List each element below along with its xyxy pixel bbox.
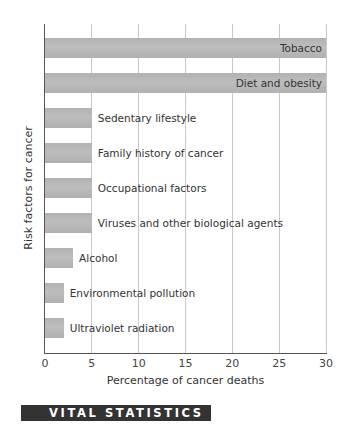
y-axis-line — [44, 24, 45, 354]
vital-statistics-banner: VITAL STATISTICS — [21, 405, 211, 421]
x-tick-label: 20 — [225, 357, 239, 370]
y-axis-title: Risk factors for cancer — [22, 126, 35, 249]
x-axis-title: Percentage of cancer deaths — [45, 374, 326, 387]
bar — [45, 178, 92, 198]
bar — [45, 283, 64, 303]
x-tick-label: 30 — [319, 357, 333, 370]
bar-label: Family history of cancer — [98, 143, 223, 163]
bar-label: Diet and obesity — [236, 73, 322, 93]
bar-label: Alcohol — [79, 248, 117, 268]
bar — [45, 143, 92, 163]
bar-label: Tobacco — [280, 38, 322, 58]
bar — [45, 108, 92, 128]
bar — [45, 318, 64, 338]
x-tick-label: 10 — [132, 357, 146, 370]
x-tick-label: 15 — [179, 357, 193, 370]
x-axis-line — [44, 353, 327, 354]
bar-label: Environmental pollution — [70, 283, 195, 303]
x-tick-label: 25 — [272, 357, 286, 370]
bar-label: Ultraviolet radiation — [70, 318, 175, 338]
bar-label: Viruses and other biological agents — [98, 213, 283, 233]
x-tick-label: 0 — [42, 357, 49, 370]
bar — [45, 248, 73, 268]
bar — [45, 213, 92, 233]
plot-area: TobaccoDiet and obesitySedentary lifesty… — [45, 24, 326, 353]
x-tick-label: 5 — [88, 357, 95, 370]
bar-label: Occupational factors — [98, 178, 207, 198]
bar-label: Sedentary lifestyle — [98, 108, 197, 128]
